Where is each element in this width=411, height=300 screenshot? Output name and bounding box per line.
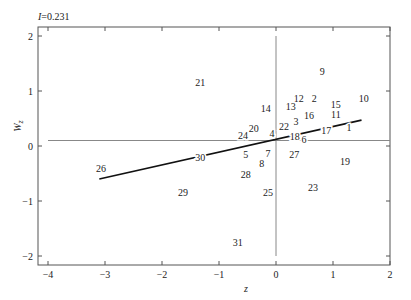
point-label-26: 26 xyxy=(96,163,106,174)
y-tick-label: 2 xyxy=(28,31,33,42)
point-label-30: 30 xyxy=(195,152,205,163)
x-tick-label: 1 xyxy=(331,269,336,280)
x-tick-label: −4 xyxy=(43,269,54,280)
x-tick-label: 0 xyxy=(274,269,279,280)
point-label-6: 6 xyxy=(301,134,306,145)
point-label-11: 11 xyxy=(331,109,341,120)
y-tick-label: −2 xyxy=(22,251,33,262)
plot-frame xyxy=(38,27,390,265)
point-label-22: 22 xyxy=(279,121,289,132)
point-label-24: 24 xyxy=(238,130,248,141)
point-label-14: 14 xyxy=(261,103,271,114)
x-tick-label: −3 xyxy=(100,269,111,280)
point-label-13: 13 xyxy=(286,101,296,112)
chart-title: I=0.231 xyxy=(37,11,69,22)
point-label-25: 25 xyxy=(263,187,273,198)
point-label-29: 29 xyxy=(178,187,188,198)
point-label-3: 3 xyxy=(293,116,298,127)
point-label-18: 18 xyxy=(290,131,300,142)
point-label-2: 2 xyxy=(312,93,317,104)
y-tick-label: −1 xyxy=(22,196,33,207)
point-label-21: 21 xyxy=(195,77,205,88)
x-axis-label: z xyxy=(243,283,248,294)
point-label-31: 31 xyxy=(233,237,243,248)
x-tick-label: −1 xyxy=(214,269,225,280)
point-label-1: 1 xyxy=(346,122,351,133)
point-label-16: 16 xyxy=(304,110,314,121)
point-label-27: 27 xyxy=(289,149,299,160)
point-label-28: 28 xyxy=(241,169,251,180)
point-label-7: 7 xyxy=(266,148,271,159)
point-label-17: 17 xyxy=(321,125,331,136)
point-label-8: 8 xyxy=(259,158,264,169)
point-label-4: 4 xyxy=(270,128,275,139)
point-label-15: 15 xyxy=(331,99,341,110)
x-tick-label: 2 xyxy=(388,269,393,280)
y-tick-label: 0 xyxy=(28,141,33,152)
point-label-5: 5 xyxy=(243,149,248,160)
y-tick-label: 1 xyxy=(28,86,33,97)
point-label-20: 20 xyxy=(249,123,259,134)
moran-scatterplot: −4−3−2−1012−2−10121234567891011121314151… xyxy=(0,0,411,300)
y-axis-label: Wz xyxy=(12,119,25,131)
point-label-23: 23 xyxy=(308,182,318,193)
point-label-9: 9 xyxy=(320,66,325,77)
x-tick-label: −2 xyxy=(157,269,168,280)
point-label-19: 19 xyxy=(340,156,350,167)
point-label-10: 10 xyxy=(359,93,369,104)
